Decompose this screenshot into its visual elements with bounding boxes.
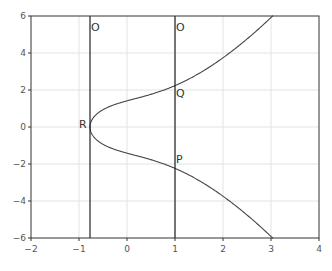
x-tick-label: −1	[72, 244, 85, 254]
x-tick-label: 1	[172, 244, 178, 254]
point-label-r: R	[79, 118, 87, 131]
y-tick-label: −4	[13, 196, 27, 206]
y-tick-label: 2	[20, 85, 26, 95]
y-tick-labels: 6 4 2 0 −2 −4 −6	[13, 11, 27, 243]
x-tick-label: 0	[124, 244, 130, 254]
y-tick-label: 0	[20, 122, 26, 132]
x-tick-label: 3	[268, 244, 274, 254]
x-tick-label: −2	[24, 244, 37, 254]
point-label-o: O	[91, 21, 100, 34]
point-label-o: O	[176, 21, 185, 34]
chart: −2 −1 0 1 2 3 4 6 4 2 0 −2 −4 −6 O O Q R…	[0, 0, 332, 271]
x-tick-labels: −2 −1 0 1 2 3 4	[24, 244, 322, 254]
y-tick-label: 6	[20, 11, 26, 21]
y-tick-label: −6	[13, 233, 27, 243]
x-tick-label: 2	[220, 244, 226, 254]
y-tick-label: 4	[20, 48, 26, 58]
x-tick-label: 4	[316, 244, 322, 254]
point-label-q: Q	[176, 87, 185, 100]
point-label-p: P	[176, 153, 183, 166]
y-tick-label: −2	[13, 159, 26, 169]
